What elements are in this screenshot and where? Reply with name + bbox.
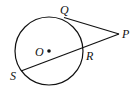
center-point-o (47, 49, 51, 53)
label-q: Q (60, 3, 69, 17)
circle-diagram: Q P O R S (0, 0, 137, 90)
label-p: P (121, 27, 130, 41)
label-s: S (10, 69, 16, 83)
label-r: R (85, 49, 94, 63)
label-o: O (35, 45, 44, 59)
